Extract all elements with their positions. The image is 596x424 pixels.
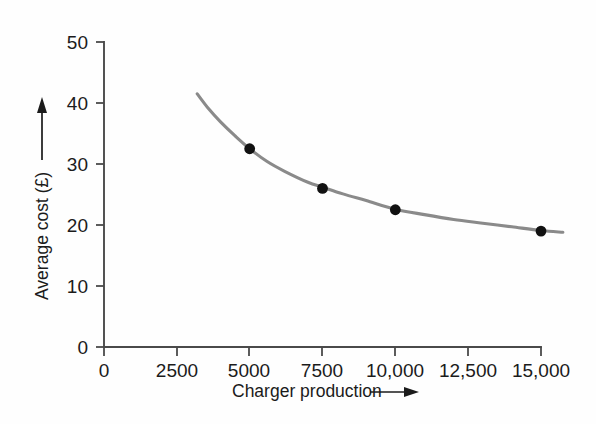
x-tick-label-10000: 10,000 bbox=[366, 360, 424, 381]
x-tick-label-2500: 2500 bbox=[156, 360, 198, 381]
x-axis-arrow-head bbox=[404, 387, 419, 397]
y-tick-label-30: 30 bbox=[67, 154, 88, 175]
data-point bbox=[536, 226, 547, 237]
data-point-markers bbox=[244, 143, 546, 236]
axes-group bbox=[104, 42, 541, 347]
y-axis-ticks bbox=[96, 42, 104, 347]
x-tick-label-15000: 15,000 bbox=[512, 360, 570, 381]
x-axis-ticks bbox=[104, 347, 541, 356]
y-axis-title: Average cost (£) bbox=[32, 172, 52, 300]
y-axis-title-group: Average cost (£) bbox=[32, 97, 52, 300]
cost-curve-chart: 50 40 30 20 10 0 0 2500 5000 7500 10,000… bbox=[0, 0, 596, 424]
y-tick-label-50: 50 bbox=[67, 32, 88, 53]
x-axis-tick-labels: 0 2500 5000 7500 10,000 12,500 15,000 bbox=[99, 360, 570, 381]
x-axis-title: Charger production bbox=[232, 381, 382, 401]
y-tick-label-20: 20 bbox=[67, 215, 88, 236]
x-tick-label-5000: 5000 bbox=[228, 360, 270, 381]
x-tick-label-12500: 12,500 bbox=[439, 360, 497, 381]
data-point bbox=[317, 183, 328, 194]
data-point bbox=[390, 204, 401, 215]
data-point bbox=[244, 143, 255, 154]
x-tick-label-0: 0 bbox=[99, 360, 110, 381]
y-tick-label-40: 40 bbox=[67, 93, 88, 114]
y-tick-label-0: 0 bbox=[77, 337, 88, 358]
average-cost-curve bbox=[197, 94, 563, 232]
y-tick-label-10: 10 bbox=[67, 276, 88, 297]
y-axis-tick-labels: 50 40 30 20 10 0 bbox=[67, 32, 88, 358]
chart-container: 50 40 30 20 10 0 0 2500 5000 7500 10,000… bbox=[0, 0, 596, 424]
x-tick-label-7500: 7500 bbox=[301, 360, 343, 381]
y-axis-arrow-head bbox=[37, 97, 47, 113]
x-axis-title-group: Charger production bbox=[232, 381, 419, 401]
